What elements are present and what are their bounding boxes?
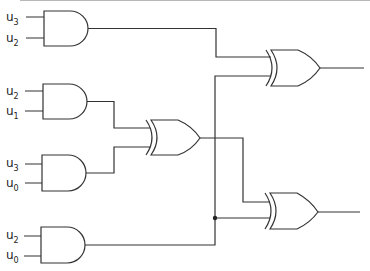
and-gate-2 <box>43 84 87 119</box>
input-label-and1-a: u3 <box>6 10 19 27</box>
input-label-and1-b: u2 <box>6 31 19 48</box>
logic-circuit-diagram: u3 u2 u2 u1 u3 u0 u2 u0 <box>0 0 370 271</box>
input-label-and2-a: u2 <box>6 84 19 101</box>
input-labels: u3 u2 u2 u1 u3 u0 u2 u0 <box>6 10 19 265</box>
xor-gate-bottom <box>265 193 318 229</box>
and-gate-3 <box>42 155 86 191</box>
wire-and1-to-xor-top <box>88 29 271 58</box>
and-gate-1 <box>44 11 88 46</box>
internal-wires <box>85 29 364 246</box>
input-label-and3-b: u0 <box>6 176 19 193</box>
input-label-and3-a: u3 <box>6 156 19 173</box>
wire-and3-to-xor-middle <box>86 147 150 173</box>
wire-xor-middle-to-xor-bottom <box>200 138 270 202</box>
and-gate-4 <box>41 227 85 263</box>
input-label-and4-b: u0 <box>6 248 19 265</box>
input-label-and2-b: u1 <box>6 104 19 121</box>
input-label-and4-a: u2 <box>6 228 19 245</box>
input-wires <box>24 17 44 256</box>
junction-dot <box>213 216 217 220</box>
xor-gate-middle <box>146 120 200 155</box>
wire-and2-to-xor-middle <box>87 102 150 129</box>
xor-gate-top <box>266 50 320 86</box>
